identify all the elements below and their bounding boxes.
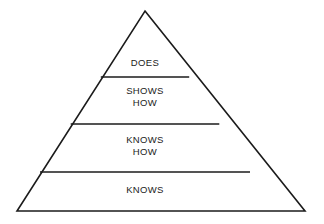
pyramid-tier-label-knows-how: KNOWS HOW bbox=[95, 134, 195, 158]
pyramid-tier-label-knows: KNOWS bbox=[95, 184, 195, 196]
pyramid-tier-label-does: DOES bbox=[95, 57, 195, 69]
pyramid-outline bbox=[17, 11, 305, 211]
millers-pyramid-figure: DOES SHOWS HOW KNOWS HOW KNOWS bbox=[0, 0, 324, 224]
pyramid-tier-label-shows-how: SHOWS HOW bbox=[95, 85, 195, 109]
